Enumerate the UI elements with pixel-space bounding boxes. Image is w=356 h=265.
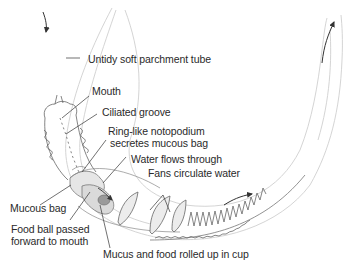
water-flow-tail-arrow (224, 194, 252, 205)
label-food-ball-line2: forward to mouth (11, 235, 89, 247)
water-outflow-arrow (322, 22, 334, 63)
water-inflow-arrow (43, 12, 46, 32)
label-food-ball-line1: Food ball passed (11, 223, 89, 235)
label-ciliated-groove: Ciliated groove (102, 106, 171, 118)
label-notopodium: Ring-like notopodium secretes mucous bag (108, 125, 208, 149)
label-mucous-bag: Mucous bag (10, 202, 66, 214)
label-notopodium-line2: secretes mucous bag (108, 137, 208, 149)
worm-head (44, 95, 96, 180)
label-fans: Fans circulate water (148, 167, 240, 179)
label-mouth: Mouth (92, 85, 121, 97)
label-food-ball: Food ball passed forward to mouth (11, 223, 89, 247)
label-water-flows: Water flows through (131, 153, 222, 165)
label-tube: Untidy soft parchment tube (88, 53, 211, 65)
label-notopodium-line1: Ring-like notopodium (108, 125, 208, 137)
label-mucus-food: Mucus and food rolled up in cup (103, 248, 249, 260)
